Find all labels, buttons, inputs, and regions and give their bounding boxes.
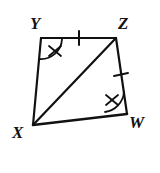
vertex-label-Z: Z xyxy=(118,15,128,32)
vertex-label-W: W xyxy=(129,114,144,131)
edge-XY xyxy=(33,38,41,125)
vertex-label-X: X xyxy=(12,124,23,141)
vertex-label-Y: Y xyxy=(30,15,40,32)
edge-WX xyxy=(33,114,127,125)
geometry-diagram-svg xyxy=(0,0,160,173)
geometry-figure: Y Z W X xyxy=(0,0,160,173)
edge-XZ-diagonal xyxy=(33,38,116,125)
